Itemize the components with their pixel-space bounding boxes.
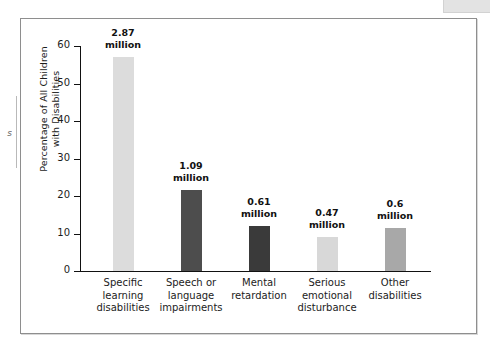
y-tick-label-60: 60 [36, 39, 70, 50]
category-label-other-disabilities: Other disabilities [349, 277, 441, 302]
bar-value-specific-learning-disabilities: 2.87 million [78, 27, 168, 50]
bar-value-unit: million [78, 39, 168, 51]
bar-mental-retardation[interactable] [249, 226, 270, 271]
y-tick-label-50: 50 [36, 77, 70, 88]
y-tick-label-20: 20 [36, 189, 70, 200]
bar-value-unit: million [146, 172, 236, 184]
bar-specific-learning-disabilities[interactable] [113, 57, 134, 272]
y-tick-50 [74, 84, 81, 85]
margin-note-fragment: s [0, 128, 12, 138]
bar-value-number: 0.61 [214, 196, 304, 208]
bar-chart-plot: Percentage of All Children with Disabili… [21, 19, 478, 335]
bar-speech-or-language-impairments[interactable] [181, 190, 202, 271]
y-tick-label-10: 10 [36, 227, 70, 238]
bar-value-number: 1.09 [146, 160, 236, 172]
y-tick-label-40: 40 [36, 114, 70, 125]
y-tick-40 [74, 121, 81, 122]
bar-value-other-disabilities: 0.6 million [350, 198, 440, 221]
bar-serious-emotional-disturbance[interactable] [317, 237, 338, 271]
figure-frame: Percentage of All Children with Disabili… [20, 18, 477, 334]
y-tick-10 [74, 234, 81, 235]
margin-rule [16, 96, 17, 168]
y-tick-label-0: 0 [36, 264, 70, 275]
bar-value-unit: million [350, 210, 440, 222]
y-tick-20 [74, 196, 81, 197]
y-tick-0 [74, 271, 81, 272]
bar-other-disabilities[interactable] [385, 228, 406, 271]
bar-value-speech-or-language-impairments: 1.09 million [146, 160, 236, 183]
y-tick-label-30: 30 [36, 152, 70, 163]
bar-value-number: 0.6 [350, 198, 440, 210]
x-axis-line [80, 271, 431, 272]
page-corner-tab [443, 0, 490, 13]
bar-value-number: 2.87 [78, 27, 168, 39]
y-tick-30 [74, 159, 81, 160]
page-root: s Percentage of All Children with Disabi… [0, 0, 498, 358]
